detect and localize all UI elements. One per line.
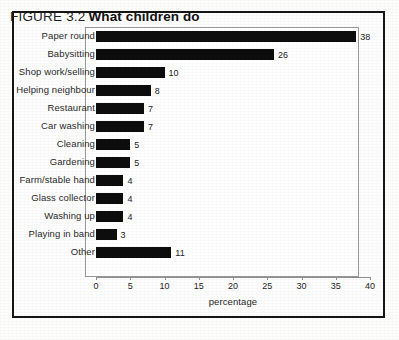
bar-row: Glass collector4	[0, 190, 399, 208]
bar-row: Gardening5	[0, 154, 399, 172]
bar-value-label: 4	[127, 212, 132, 222]
bar-track: 26	[96, 49, 370, 60]
bar-value-label: 5	[134, 140, 139, 150]
bar-row: Washing up4	[0, 208, 399, 226]
bar-row: Helping neighbour8	[0, 82, 399, 100]
bar-value-label: 4	[127, 176, 132, 186]
bar-track: 5	[96, 157, 370, 168]
x-axis-tick	[199, 277, 200, 280]
bar-row: Babysitting26	[0, 46, 399, 64]
bar-category-label: Glass collector	[31, 192, 95, 204]
bar	[96, 247, 171, 258]
x-axis-tick-label: 15	[194, 281, 204, 292]
bar-category-label: Washing up	[44, 210, 95, 222]
x-axis-tick-label: 0	[93, 281, 98, 292]
bar	[96, 211, 123, 222]
bar-track: 5	[96, 139, 370, 150]
bar	[96, 31, 356, 42]
bar	[96, 103, 144, 114]
bar-category-label: Playing in band	[29, 228, 95, 240]
bar-category-label: Paper round	[42, 30, 95, 42]
bar	[96, 49, 274, 60]
bar	[96, 229, 117, 240]
x-axis-tick-label: 10	[159, 281, 169, 292]
x-axis-tick-label: 30	[296, 281, 306, 292]
bar-value-label: 38	[360, 32, 370, 42]
x-axis-tick	[302, 277, 303, 280]
bar-row: Car washing7	[0, 118, 399, 136]
bar	[96, 175, 123, 186]
x-axis-tick	[130, 277, 131, 280]
bar-track: 38	[96, 31, 370, 42]
bar-category-label: Other	[71, 246, 95, 258]
figure-root: FIGURE 3.2What children do Paper round38…	[0, 0, 399, 340]
x-axis-tick-labels: 0510152025303540	[0, 281, 399, 295]
bar-value-label: 3	[121, 230, 126, 240]
bar-category-label: Shop work/selling	[19, 66, 95, 78]
bar-value-label: 26	[278, 50, 288, 60]
figure-title: FIGURE 3.2What children do	[10, 8, 200, 24]
bar-track: 4	[96, 175, 370, 186]
bar-value-label: 8	[155, 86, 160, 96]
bar-category-label: Babysitting	[47, 48, 95, 60]
x-axis-tick-label: 40	[365, 281, 375, 292]
bar-row: Cleaning5	[0, 136, 399, 154]
bar-row: Paper round38	[0, 28, 399, 46]
bar-track: 4	[96, 211, 370, 222]
bar	[96, 157, 130, 168]
x-axis-tick	[96, 277, 97, 280]
bar-category-label: Restaurant	[48, 102, 95, 114]
bar	[96, 67, 165, 78]
bar	[96, 139, 130, 150]
bar-category-label: Cleaning	[57, 138, 95, 150]
bar-track: 3	[96, 229, 370, 240]
bar-value-label: 7	[148, 122, 153, 132]
bar-track: 7	[96, 103, 370, 114]
bar-value-label: 7	[148, 104, 153, 114]
bar-row: Restaurant7	[0, 100, 399, 118]
bar-row: Shop work/selling10	[0, 64, 399, 82]
bar-track: 10	[96, 67, 370, 78]
x-axis-tick	[267, 277, 268, 280]
bar-track: 7	[96, 121, 370, 132]
bar-value-label: 10	[169, 68, 179, 78]
x-axis-tick-label: 35	[331, 281, 341, 292]
bar	[96, 85, 151, 96]
figure-number-label: FIGURE 3.2	[10, 9, 86, 24]
bar	[96, 121, 144, 132]
x-axis-tick	[233, 277, 234, 280]
bar-category-label: Car washing	[41, 120, 95, 132]
bar-category-label: Helping neighbour	[16, 84, 95, 96]
x-axis-tick-label: 25	[262, 281, 272, 292]
x-axis-tick-label: 5	[128, 281, 133, 292]
bar-row: Farm/stable hand4	[0, 172, 399, 190]
bar-category-label: Farm/stable hand	[19, 174, 95, 186]
x-axis-tick	[165, 277, 166, 280]
x-axis-tick	[336, 277, 337, 280]
bar-value-label: 5	[134, 158, 139, 168]
bar-category-label: Gardening	[50, 156, 95, 168]
figure-title-text: What children do	[89, 9, 200, 24]
x-axis-title: percentage	[96, 296, 370, 307]
x-axis-tick	[370, 277, 371, 280]
bar-row: Playing in band3	[0, 226, 399, 244]
bar	[96, 193, 123, 204]
bar-track: 4	[96, 193, 370, 204]
x-axis-line	[96, 277, 370, 278]
bar-value-label: 11	[175, 248, 184, 258]
x-axis-tick-label: 20	[228, 281, 238, 292]
bar-track: 8	[96, 85, 370, 96]
bar-value-label: 4	[127, 194, 132, 204]
bar-track: 11	[96, 247, 370, 258]
bar-rows-container: Paper round38Babysitting26Shop work/sell…	[0, 28, 399, 262]
bar-row: Other11	[0, 244, 399, 262]
